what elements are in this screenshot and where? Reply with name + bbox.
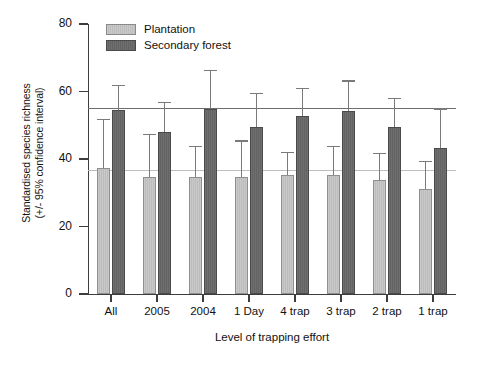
bar-secondary-forest-2005	[158, 132, 172, 294]
error-bar-cap-secondary-forest-1-trap	[434, 108, 447, 109]
error-bar-stem-plantation-1-day	[241, 140, 242, 176]
y-tick-label-0: 0	[0, 286, 72, 300]
bar-secondary-forest-1-day	[250, 127, 264, 294]
bar-secondary-forest-3-trap	[342, 111, 356, 294]
y-tick-0	[79, 293, 88, 294]
error-bar-stem-plantation-1-trap	[425, 161, 426, 190]
x-tick-4	[294, 295, 295, 302]
error-bar-cap-plantation-1-day	[235, 140, 248, 141]
plantation-swatch-icon	[106, 24, 136, 35]
error-bar-stem-plantation-2-trap	[379, 153, 380, 180]
error-bar-cap-secondary-forest-4-trap	[296, 88, 309, 89]
legend-item-secondary-forest: Secondary forest	[106, 38, 231, 52]
error-bar-cap-plantation-2004	[189, 146, 202, 147]
error-bar-cap-plantation-2-trap	[373, 153, 386, 154]
error-bar-stem-secondary-forest-3-trap	[348, 80, 349, 111]
y-tick-80	[79, 23, 88, 24]
bar-plantation-4-trap	[281, 175, 295, 294]
error-bar-cap-plantation-2005	[143, 134, 156, 135]
error-bar-stem-plantation-3-trap	[333, 146, 334, 175]
bar-secondary-forest-4-trap	[296, 116, 310, 294]
bar-plantation-3-trap	[327, 175, 341, 294]
error-bar-stem-secondary-forest-2-trap	[394, 98, 395, 127]
secondary-forest-swatch-icon	[106, 40, 136, 51]
bar-secondary-forest-2004	[204, 109, 218, 294]
x-tick-6	[386, 295, 387, 302]
x-tick-3	[248, 295, 249, 302]
x-tick-7	[432, 295, 433, 302]
y-tick-label-80: 80	[0, 16, 72, 30]
legend-label-secondary-forest: Secondary forest	[144, 39, 231, 51]
error-bar-cap-secondary-forest-2-trap	[388, 98, 401, 99]
y-tick-20	[79, 226, 88, 227]
x-axis-title: Level of trapping effort	[88, 331, 456, 343]
error-bar-cap-secondary-forest-1-day	[250, 93, 263, 94]
bar-secondary-forest-2-trap	[388, 127, 402, 294]
error-bar-cap-secondary-forest-2004	[204, 70, 217, 71]
bar-plantation-1-day	[235, 177, 249, 294]
bar-plantation-2005	[143, 177, 157, 294]
error-bar-stem-plantation-2005	[149, 134, 150, 178]
error-bar-cap-secondary-forest-2005	[158, 102, 171, 103]
bar-plantation-all	[97, 168, 111, 294]
plot-area	[88, 24, 455, 294]
error-bar-stem-secondary-forest-1-trap	[440, 108, 441, 147]
legend-label-plantation: Plantation	[144, 23, 195, 35]
x-tick-1	[156, 295, 157, 302]
error-bar-cap-plantation-3-trap	[327, 146, 340, 147]
error-bar-stem-plantation-4-trap	[287, 152, 288, 175]
y-tick-60	[79, 91, 88, 92]
error-bar-stem-plantation-all	[103, 119, 104, 168]
y-tick-40	[79, 158, 88, 159]
error-bar-cap-plantation-all	[97, 119, 110, 120]
bar-plantation-1-trap	[419, 189, 433, 294]
error-bar-cap-plantation-1-trap	[419, 161, 432, 162]
bar-secondary-forest-all	[112, 110, 126, 294]
bar-plantation-2004	[189, 177, 203, 294]
y-axis-title-area: Standardised species richness (+/- 95% c…	[0, 0, 58, 300]
x-tick-5	[340, 295, 341, 302]
x-tick-0	[110, 295, 111, 302]
error-bar-cap-secondary-forest-all	[112, 85, 125, 86]
y-tick-label-40: 40	[0, 151, 72, 165]
error-bar-stem-secondary-forest-4-trap	[302, 88, 303, 116]
error-bar-stem-plantation-2004	[195, 146, 196, 177]
x-axis-line	[88, 294, 456, 295]
x-tick-label-1-trap: 1 trap	[402, 305, 464, 317]
error-bar-cap-secondary-forest-3-trap	[342, 80, 355, 81]
legend-item-plantation: Plantation	[106, 22, 231, 36]
error-bar-stem-secondary-forest-2004	[210, 70, 211, 109]
chart-figure: Standardised species richness (+/- 95% c…	[0, 0, 482, 366]
bar-secondary-forest-1-trap	[434, 148, 448, 294]
error-bar-stem-secondary-forest-2005	[164, 102, 165, 132]
x-tick-2	[202, 295, 203, 302]
y-tick-label-20: 20	[0, 219, 72, 233]
error-bar-stem-secondary-forest-all	[118, 85, 119, 110]
error-bar-cap-plantation-4-trap	[281, 152, 294, 153]
bar-plantation-2-trap	[373, 180, 387, 294]
chart-legend: Plantation Secondary forest	[106, 22, 231, 54]
y-tick-label-60: 60	[0, 84, 72, 98]
error-bar-stem-secondary-forest-1-day	[256, 93, 257, 126]
